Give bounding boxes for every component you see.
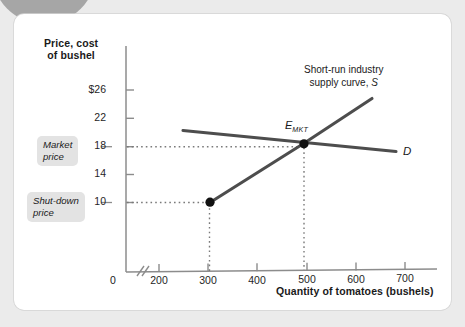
origin-label: 0 [110, 275, 116, 287]
y-tick-label-14: 14 [72, 168, 106, 180]
x-tick-label-600: 600 [338, 274, 374, 286]
demand-curve-label: D [403, 145, 411, 158]
x-axis-title: Quantity of tomatoes (bushels) [276, 286, 434, 298]
supply-curve-annotation: Short-run industry supply curve, S [304, 64, 383, 89]
x-axis-line [126, 269, 437, 272]
y-tick-label-26: $26 [72, 84, 106, 96]
equilibrium-point-marker [299, 139, 308, 148]
guide-lines [127, 147, 304, 271]
supply-curve-annotation-line1: Short-run industry [304, 64, 383, 77]
supply-curve-annotation-line2: supply curve, S [304, 77, 383, 90]
x-tick-label-200: 200 [141, 275, 177, 287]
supply-curve-symbol: S [371, 77, 378, 88]
x-tick-label-400: 400 [239, 275, 275, 287]
equilibrium-point-label: EMKT [285, 119, 308, 134]
shutdown-point-marker [205, 198, 214, 207]
x-tick-label-300: 300 [190, 275, 226, 287]
x-tick-label-500: 500 [289, 274, 325, 286]
y-axis-title: Price, cost of bushel [44, 38, 98, 62]
figure-container: Price, cost of bushel $26 22 18 14 10 0 … [0, 0, 465, 327]
supply-curve-annotation-text: supply curve, [310, 77, 369, 88]
y-axis-title-line2: of bushel [44, 50, 98, 62]
shutdown-price-callout-line1: Shut-down [33, 195, 79, 207]
shutdown-price-callout: Shut-down price [27, 192, 85, 222]
supply-curve [210, 99, 372, 203]
x-tick-label-700: 700 [387, 273, 423, 285]
shutdown-price-callout-line2: price [33, 207, 79, 219]
market-price-callout-line2: price [43, 151, 72, 163]
y-axis-title-line1: Price, cost [44, 38, 98, 50]
y-tick-label-22: 22 [72, 112, 106, 124]
equilibrium-label-subscript: MKT [292, 125, 308, 134]
market-price-callout: Market price [37, 136, 78, 166]
market-price-callout-line1: Market [43, 139, 72, 151]
